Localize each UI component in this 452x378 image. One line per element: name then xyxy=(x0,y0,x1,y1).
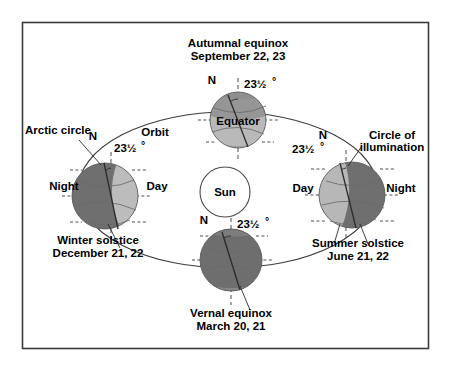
north-pole-label-left: N xyxy=(89,130,97,142)
winter-solstice-season-label: Winter solstice xyxy=(57,234,139,246)
tilt-label-right: 23½ xyxy=(292,143,315,155)
tilt-label-top: 23½ xyxy=(244,78,267,90)
globe-left xyxy=(70,156,142,236)
autumnal-equinox-season-label: Autumnal equinox xyxy=(188,37,289,49)
summer-solstice-season-label: Summer solstice xyxy=(312,237,404,249)
vernal-equinox-season-label: Vernal equinox xyxy=(190,307,272,319)
day-label-right: Day xyxy=(292,182,314,194)
tilt-degree-symbol-bottom: ° xyxy=(265,215,269,227)
night-label-left: Night xyxy=(49,180,79,192)
day-label-left: Day xyxy=(146,180,168,192)
vernal-equinox-date-label: March 20, 21 xyxy=(196,320,266,332)
equator-label: Equator xyxy=(216,115,260,127)
position-winter-solstice: Arctic circle N 23½ ° Orbit Night Day Wi… xyxy=(25,124,169,259)
autumnal-equinox-date-label: September 22, 23 xyxy=(191,50,286,62)
tilt-label-left: 23½ xyxy=(114,142,137,154)
tilt-degree-symbol-left: ° xyxy=(141,139,145,151)
arctic-circle-leader xyxy=(79,140,101,165)
tilt-degree-symbol-right: ° xyxy=(320,140,324,152)
earth-seasons-diagram: Sun Autumnal equinox September 22, 23 N … xyxy=(0,0,452,378)
summer-solstice-date-label: June 21, 22 xyxy=(327,250,389,262)
orbit-label: Orbit xyxy=(141,126,169,138)
north-pole-label-top: N xyxy=(208,74,216,86)
position-autumnal-equinox: Autumnal equinox September 22, 23 N 23½ … xyxy=(188,37,289,162)
night-label-right: Night xyxy=(386,182,416,194)
circle-of-illumination-label: Circle ofillumination xyxy=(360,129,425,153)
globe-right xyxy=(317,155,390,236)
arctic-circle-label-line1: Arctic circle xyxy=(25,124,91,136)
diagram-canvas: Sun Autumnal equinox September 22, 23 N … xyxy=(0,0,452,378)
position-vernal-equinox: N 23½ ° Vernal equinox March 20, 21 xyxy=(190,214,274,332)
sun-label: Sun xyxy=(214,186,236,198)
winter-solstice-date-label: December 21, 22 xyxy=(53,247,144,259)
globe-bottom xyxy=(198,224,266,296)
position-summer-solstice: N 23½ ° Circle ofillumination Day Night … xyxy=(292,129,424,262)
tilt-degree-symbol-top: ° xyxy=(272,75,276,87)
north-pole-label-bottom: N xyxy=(200,214,208,226)
tilt-label-bottom: 23½ xyxy=(237,218,260,230)
